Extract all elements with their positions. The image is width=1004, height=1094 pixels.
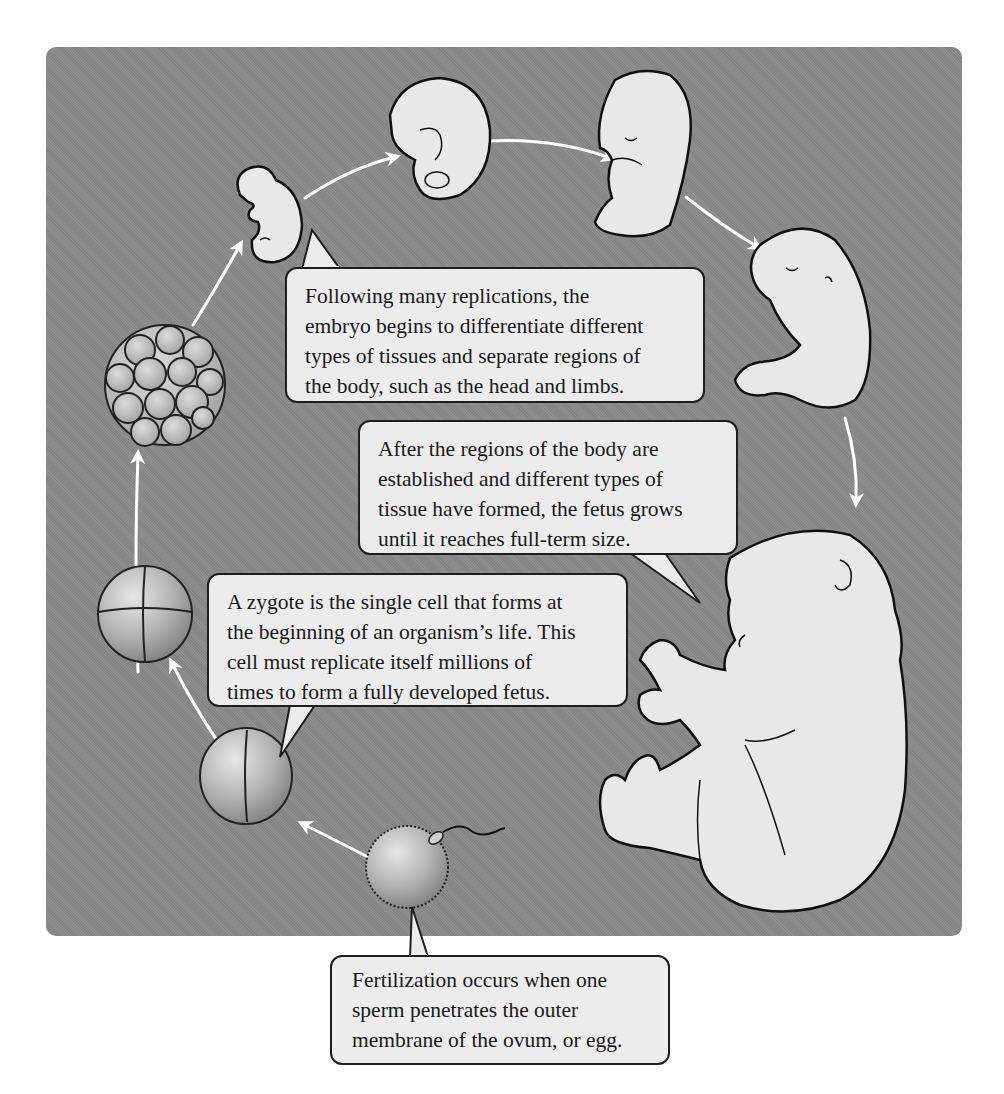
callout-text-line: the body, such as the head and limbs.: [305, 371, 703, 401]
morula-illustration: [105, 325, 225, 446]
callout-differentiation: Following many replications, the embryo …: [285, 267, 705, 403]
four-cell-illustration: [98, 566, 192, 662]
callout-text-line: embryo begins to differentiate different: [305, 311, 703, 341]
arrow-early-fetus-to-full-term: [845, 418, 856, 502]
fertilized-ovum-illustration: [366, 826, 505, 908]
arrow-limbs-to-early-fetus: [686, 197, 758, 247]
callout-text-line: established and different types of: [378, 464, 736, 494]
callout-growth: After the regions of the body are establ…: [358, 420, 738, 555]
callout-text-line: membrane of the ovum, or egg.: [352, 1025, 668, 1055]
callout-text-line: After the regions of the body are: [378, 434, 736, 464]
arrow-morula-to-early-embryo: [193, 245, 240, 325]
callout-text-line: until it reaches full-term size.: [378, 524, 736, 554]
callout-text-line: times to form a fully developed fetus.: [227, 677, 626, 707]
arrow-ovum-to-two-cell: [303, 824, 370, 858]
curled-embryo-illustration: [390, 78, 490, 199]
diagram-stage: Following many replications, the embryo …: [0, 0, 1004, 1094]
two-cell-illustration: [200, 728, 292, 824]
arrow-early-embryo-to-curled: [305, 157, 395, 198]
tail-differentiation: [302, 230, 340, 269]
callout-text-line: Following many replications, the: [305, 281, 703, 311]
arrow-curled-to-limbs: [490, 141, 610, 158]
callout-text-line: Fertilization occurs when one: [352, 965, 668, 995]
tail-growth: [630, 553, 700, 603]
embryo-with-limbs-illustration: [595, 71, 691, 236]
callout-fertilization: Fertilization occurs when one sperm pene…: [330, 955, 670, 1065]
callout-text-line: tissue have formed, the fetus grows: [378, 494, 736, 524]
early-embryo-illustration: [238, 167, 302, 263]
callout-text-line: the beginning of an organism’s life. Thi…: [227, 617, 626, 647]
tail-fertilization: [410, 907, 428, 957]
callout-text-line: cell must replicate itself millions of: [227, 647, 626, 677]
callout-text-line: sperm penetrates the outer: [352, 995, 668, 1025]
early-fetus-illustration: [735, 229, 870, 408]
callout-text-line: A zygote is the single cell that forms a…: [227, 587, 626, 617]
callout-text-line: types of tissues and separate regions of: [305, 341, 703, 371]
full-term-fetus-illustration: [600, 531, 907, 912]
callout-zygote: A zygote is the single cell that forms a…: [207, 573, 628, 707]
tail-zygote: [280, 705, 315, 757]
